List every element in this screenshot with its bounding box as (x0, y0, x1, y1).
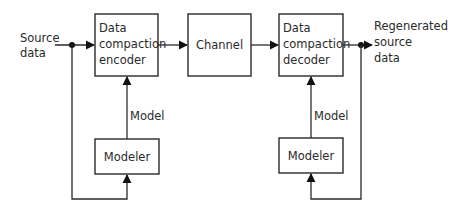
modeler-right-label: Modeler (288, 149, 335, 163)
channel-block: Channel (188, 14, 251, 76)
decoder-label-line-2: compaction (283, 37, 350, 51)
source-data-label: Source data (20, 31, 60, 60)
regenerated-data-label: Regenerated source data (374, 19, 448, 65)
encoder-label-line-2: compaction (99, 37, 166, 51)
output-label-line-3: data (374, 51, 400, 65)
model-right-edge-label: Model (314, 109, 349, 123)
decoder-label-line-1: Data (283, 21, 310, 35)
encoder-label-line-3: encoder (99, 53, 146, 67)
output-label-line-1: Regenerated (374, 19, 448, 33)
modeler-right-block: Modeler (279, 138, 343, 173)
model-left-edge-label: Model (130, 109, 165, 123)
decoder-label-line-3: decoder (283, 53, 330, 67)
decoder-block: Data compaction decoder (279, 14, 350, 76)
source-label-line-2: data (20, 46, 46, 60)
encoder-label-line-1: Data (99, 21, 126, 35)
channel-label: Channel (196, 38, 243, 52)
modeler-left-block: Modeler (95, 139, 159, 174)
modeler-left-label: Modeler (104, 150, 151, 164)
source-label-line-1: Source (20, 31, 60, 45)
data-compaction-diagram: Source data Data compaction encoder Mode… (0, 0, 459, 215)
encoder-block: Data compaction encoder (95, 14, 166, 76)
output-label-line-2: source (374, 35, 412, 49)
